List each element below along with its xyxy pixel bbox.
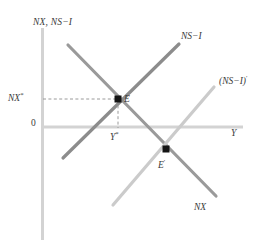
x-axis-label: Y	[231, 129, 236, 139]
point-marker-e	[115, 96, 122, 103]
point-label-e-prime: E′	[158, 159, 165, 171]
curve-label-ns-minus-i-prime-superscript: ′	[246, 74, 248, 81]
y-tick-label-nx-star: NX*	[8, 92, 24, 104]
y-tick-label-superscript: *	[20, 91, 23, 98]
curve-label-ns-minus-i: NS−I	[181, 32, 202, 42]
economics-diagram: NX, NS−I Y 0 NX* Y* NS−I (NS−I)′ NX E E′	[0, 0, 277, 244]
point-label-e: E	[124, 95, 130, 105]
curve-label-nx: NX	[194, 203, 206, 213]
y-tick-label-text: NX	[8, 93, 20, 103]
origin-label: 0	[31, 119, 36, 129]
curve-label-ns-minus-i-prime-text: (NS−I)	[219, 76, 246, 86]
point-label-e-prime-superscript: ′	[164, 158, 166, 165]
diagram-canvas	[0, 0, 277, 244]
y-axis-label: NX, NS−I	[33, 18, 72, 28]
x-tick-label-y-star: Y*	[110, 131, 119, 143]
curve-label-ns-minus-i-prime: (NS−I)′	[219, 75, 248, 87]
point-marker-e-prime	[163, 146, 170, 153]
x-tick-label-superscript: *	[115, 130, 118, 137]
